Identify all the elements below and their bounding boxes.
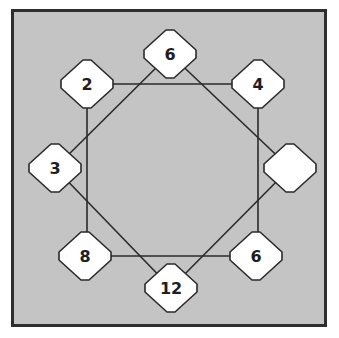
- node-top-right: 4: [232, 60, 284, 108]
- node-left: 3: [29, 144, 81, 192]
- node-label: 12: [160, 279, 182, 298]
- node-label: 2: [81, 75, 92, 94]
- node-label: 6: [164, 45, 175, 64]
- square-lines: [85, 84, 258, 256]
- node-top-left: 2: [61, 60, 113, 108]
- node-label: 4: [252, 75, 263, 94]
- node-label: 6: [250, 247, 261, 266]
- node-label: 8: [79, 247, 90, 266]
- node-bottom-left: 8: [59, 232, 111, 280]
- node-bottom: 12: [145, 264, 197, 312]
- node-bottom-right: 6: [230, 232, 282, 280]
- puzzle-diagram: 6 2 4 3 8 6 12: [0, 0, 339, 338]
- node-label: 3: [49, 159, 60, 178]
